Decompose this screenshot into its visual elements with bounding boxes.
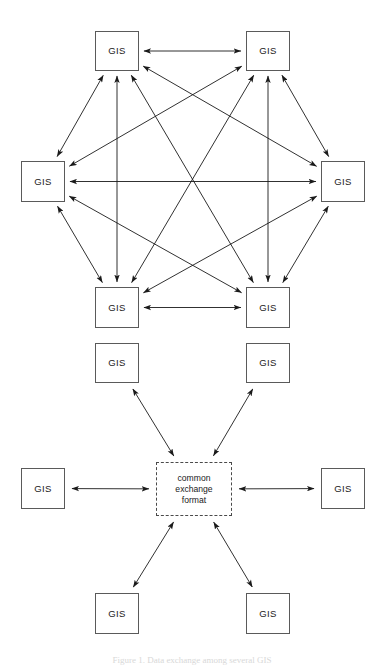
common-exchange-format-node[interactable]: commonexchangeformat [156,462,232,516]
gis-node-label: GIS [334,177,352,187]
gis-node-label: GIS [34,484,52,494]
edge-t_tl-t_ml [57,75,103,156]
edge-t_tr-t_ml [69,66,241,166]
gis-node-t_tr[interactable]: GIS [246,31,290,71]
top-diagram-edges [57,51,329,308]
gis-node-label: GIS [108,609,126,619]
edge-t_mr-t_bl [143,196,316,293]
edge-t_mr-t_br [283,206,328,282]
gis-node-label: GIS [108,303,126,313]
hub-label-line-0: common [178,473,211,484]
edge-b_tl-hub [133,389,174,456]
gis-node-t_mr[interactable]: GIS [321,161,365,202]
edge-b_br-hub [214,522,253,587]
gis-node-label: GIS [108,358,126,368]
gis-node-label: GIS [259,609,277,619]
gis-node-label: GIS [259,303,277,313]
hub-label-line-1: exchange [175,484,212,495]
edge-t_ml-t_bl [58,206,103,282]
hub-label-line-2: format [182,495,206,506]
diagram-edges-canvas [0,0,384,669]
edge-t_tr-t_mr [282,75,329,156]
figure-root: GISGISGISGISGISGISGISGISGISGISGISGIScomm… [0,0,384,669]
gis-node-t_tl[interactable]: GIS [95,31,139,71]
gis-node-b_bl[interactable]: GIS [95,593,139,634]
gis-node-b_tr[interactable]: GIS [246,343,290,383]
gis-node-label: GIS [259,358,277,368]
gis-node-label: GIS [259,46,277,56]
edge-b_bl-hub [133,522,173,587]
edge-b_tr-hub [213,389,252,456]
gis-node-b_br[interactable]: GIS [246,593,290,634]
gis-node-label: GIS [108,46,126,56]
gis-node-t_br[interactable]: GIS [246,287,290,328]
gis-node-t_bl[interactable]: GIS [95,287,139,328]
figure-caption: Figure 1. Data exchange among several GI… [0,655,384,665]
gis-node-b_tl[interactable]: GIS [95,343,139,383]
edge-t_ml-t_br [69,196,241,292]
gis-node-label: GIS [334,484,352,494]
gis-node-t_ml[interactable]: GIS [21,161,65,202]
gis-node-b_mr[interactable]: GIS [321,468,365,509]
gis-node-label: GIS [34,177,52,187]
gis-node-b_ml[interactable]: GIS [21,468,65,509]
